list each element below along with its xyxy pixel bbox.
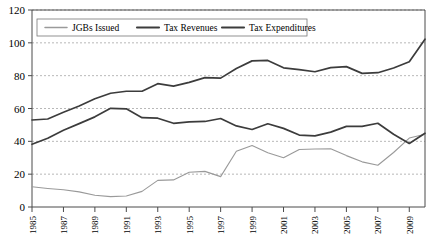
legend-label-2: Tax Revenues [164,23,218,33]
y-tick-label: 80 [14,70,26,82]
x-tick-label: 1987 [59,216,69,235]
x-tick-label: 1997 [216,216,226,235]
x-tick-label: 1989 [90,216,100,235]
chart-container: 0204060801001201985198719891991199319951… [0,0,434,250]
x-tick-label: 1995 [185,216,195,235]
series-line-tax-revenues [32,108,425,144]
y-tick-label: 20 [14,168,26,180]
x-tick-label: 1993 [153,216,163,235]
y-tick-label: 40 [14,135,26,147]
series-line-tax-expenditures [32,39,425,120]
legend-label-3: Tax Expenditures [249,23,316,33]
x-tick-label: 1999 [248,216,258,235]
x-tick-label: 2003 [310,216,320,235]
x-tick-label: 1991 [122,216,132,234]
y-tick-label: 60 [14,103,26,115]
y-tick-label: 100 [9,37,26,49]
line-chart: 0204060801001201985198719891991199319951… [0,0,434,250]
x-tick-label: 2009 [405,216,415,235]
y-tick-label: 120 [9,4,26,16]
x-tick-label: 2005 [342,216,352,235]
x-tick-label: 2001 [279,216,289,234]
x-tick-label: 2007 [373,216,383,235]
x-tick-label: 1985 [28,216,38,235]
y-tick-label: 0 [20,201,26,213]
series-line-jgbs-issued [32,134,425,196]
legend-label-1: JGBs Issued [72,23,119,33]
